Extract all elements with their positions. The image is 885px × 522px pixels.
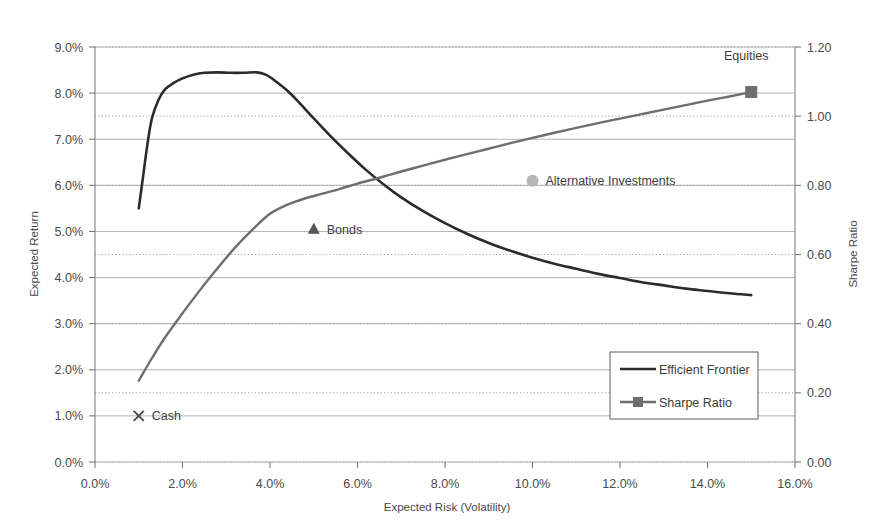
- y-tick-label: 3.0%: [55, 317, 84, 331]
- x-axis-tick-labels: 0.0%2.0%4.0%6.0%8.0%10.0%12.0%14.0%16.0%: [81, 477, 813, 491]
- x-tick-label: 8.0%: [431, 477, 460, 491]
- x-tick-label: 12.0%: [602, 477, 637, 491]
- y2-tick-label: 0.60: [807, 248, 831, 262]
- y2-tick-label: 1.00: [807, 110, 831, 124]
- x-tick-label: 14.0%: [690, 477, 725, 491]
- legend-label-efficient-frontier: Efficient Frontier: [659, 363, 750, 377]
- point-label-cash: Cash: [152, 409, 181, 423]
- series-endpoint-marker: [746, 86, 757, 97]
- efficient-frontier-chart: 0.0%1.0%2.0%3.0%4.0%5.0%6.0%7.0%8.0%9.0%…: [0, 0, 885, 522]
- y-tick-label: 7.0%: [55, 133, 84, 147]
- x-axis-title: Expected Risk (Volatility): [384, 501, 511, 513]
- y-tick-label: 4.0%: [55, 271, 84, 285]
- y2-axis-title: Sharpe Ratio: [847, 220, 859, 287]
- y-tick-label: 1.0%: [55, 409, 84, 423]
- chart-container: 0.0%1.0%2.0%3.0%4.0%5.0%6.0%7.0%8.0%9.0%…: [0, 0, 885, 522]
- y2-tick-label: 1.20: [807, 41, 831, 55]
- point-label-alternative-investments: Alternative Investments: [546, 174, 676, 188]
- chart-legend[interactable]: Efficient FrontierSharpe Ratio: [610, 352, 758, 419]
- x-tick-label: 0.0%: [81, 477, 110, 491]
- x-tick-label: 10.0%: [515, 477, 550, 491]
- legend-label-sharpe-ratio: Sharpe Ratio: [659, 396, 732, 410]
- y-tick-label: 6.0%: [55, 179, 84, 193]
- y-tick-label: 2.0%: [55, 363, 84, 377]
- y-axis-title: Expected Return: [28, 211, 40, 297]
- y2-tick-label: 0.20: [807, 386, 831, 400]
- point-label-bonds: Bonds: [327, 223, 362, 237]
- y-axis-tick-labels: 0.0%1.0%2.0%3.0%4.0%5.0%6.0%7.0%8.0%9.0%: [55, 41, 84, 470]
- circle-marker-alternative-investments: [527, 175, 539, 187]
- y2-tick-label: 0.80: [807, 179, 831, 193]
- x-tick-label: 6.0%: [343, 477, 372, 491]
- y-tick-label: 9.0%: [55, 41, 84, 55]
- x-tick-label: 2.0%: [168, 477, 197, 491]
- y2-tick-label: 0.00: [807, 456, 831, 470]
- y2-axis-tick-labels: 0.000.200.400.600.801.001.20: [807, 41, 831, 470]
- y2-tick-label: 0.40: [807, 317, 831, 331]
- x-tick-label: 4.0%: [256, 477, 285, 491]
- y-tick-label: 8.0%: [55, 87, 84, 101]
- y-tick-label: 0.0%: [55, 456, 84, 470]
- legend-swatch-square: [633, 397, 643, 407]
- point-label-equities: Equities: [724, 49, 768, 63]
- x-tick-label: 16.0%: [777, 477, 812, 491]
- y-tick-label: 5.0%: [55, 225, 84, 239]
